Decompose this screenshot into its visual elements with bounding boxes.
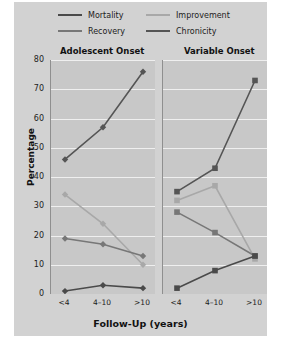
data-point-marker <box>212 230 218 236</box>
plot-panel-adolescent-onset <box>50 60 155 294</box>
x-tick-label: 4–10 <box>82 298 122 307</box>
y-tick-label: 40 <box>14 172 44 181</box>
panel-title-variable: Variable Onset <box>184 46 255 56</box>
series-line-improvement <box>65 195 143 265</box>
y-tick-label: 20 <box>14 231 44 240</box>
legend-item-mortality: Mortality <box>58 11 146 20</box>
legend-label-improvement: Improvement <box>176 11 230 20</box>
legend-label-mortality: Mortality <box>88 11 123 20</box>
y-tick-label: 0 <box>14 289 44 298</box>
data-point-marker <box>174 198 180 204</box>
x-axis-label: Follow-Up (years) <box>14 318 267 329</box>
x-tick-label: 4–10 <box>194 298 234 307</box>
legend-swatch-recovery <box>58 30 82 32</box>
y-tick-label: 80 <box>14 55 44 64</box>
plot-panel-variable-onset <box>162 60 267 294</box>
legend-item-improvement: Improvement <box>146 11 234 20</box>
legend-label-chronicity: Chronicity <box>176 27 216 36</box>
data-point-marker <box>174 189 180 195</box>
data-point-marker <box>100 282 106 288</box>
y-tick-label: 50 <box>14 143 44 152</box>
y-tick-label: 70 <box>14 84 44 93</box>
series-line-chronicity <box>65 238 143 256</box>
chart-legend: Mortality Improvement Recovery Chronicit… <box>14 8 267 42</box>
legend-swatch-mortality <box>58 14 82 16</box>
data-point-marker <box>62 288 68 294</box>
y-tick-label: 10 <box>14 260 44 269</box>
data-point-marker <box>212 183 218 189</box>
chart-figure: Mortality Improvement Recovery Chronicit… <box>14 2 267 336</box>
data-point-marker <box>252 253 258 259</box>
legend-swatch-chronicity <box>146 30 170 32</box>
legend-label-recovery: Recovery <box>88 27 125 36</box>
data-point-marker <box>62 235 68 241</box>
legend-row-2: Recovery Chronicity <box>58 24 258 38</box>
series-plot <box>163 60 267 294</box>
data-point-marker <box>212 268 218 274</box>
panel-title-adolescent: Adolescent Onset <box>60 46 144 56</box>
series-line-improvement <box>177 186 255 259</box>
data-point-marker <box>174 209 180 215</box>
legend-item-chronicity: Chronicity <box>146 27 234 36</box>
data-point-marker <box>140 253 146 259</box>
legend-row-1: Mortality Improvement <box>58 8 258 22</box>
series-plot <box>51 60 155 294</box>
series-line-recovery <box>65 72 143 160</box>
x-tick-label: >10 <box>234 298 274 307</box>
data-point-marker <box>212 165 218 171</box>
legend-swatch-improvement <box>146 14 170 16</box>
data-point-marker <box>140 285 146 291</box>
y-tick-label: 60 <box>14 114 44 123</box>
data-point-marker <box>252 78 258 84</box>
x-tick-label: <4 <box>44 298 84 307</box>
data-point-marker <box>100 241 106 247</box>
x-tick-label: <4 <box>156 298 196 307</box>
legend-item-recovery: Recovery <box>58 27 146 36</box>
series-line-recovery <box>177 80 255 191</box>
y-tick-label: 30 <box>14 201 44 210</box>
data-point-marker <box>174 285 180 291</box>
